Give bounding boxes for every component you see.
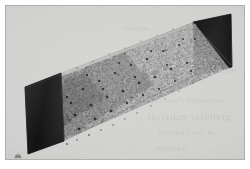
duct-svg bbox=[5, 5, 245, 160]
figure-root: interaction of the measured flow rate gr… bbox=[0, 0, 250, 169]
duct-scene bbox=[5, 5, 245, 160]
scanner-smudge-artifact bbox=[14, 152, 23, 159]
scanned-plate: interaction of the measured flow rate gr… bbox=[5, 5, 245, 160]
near-endcap bbox=[25, 73, 64, 154]
